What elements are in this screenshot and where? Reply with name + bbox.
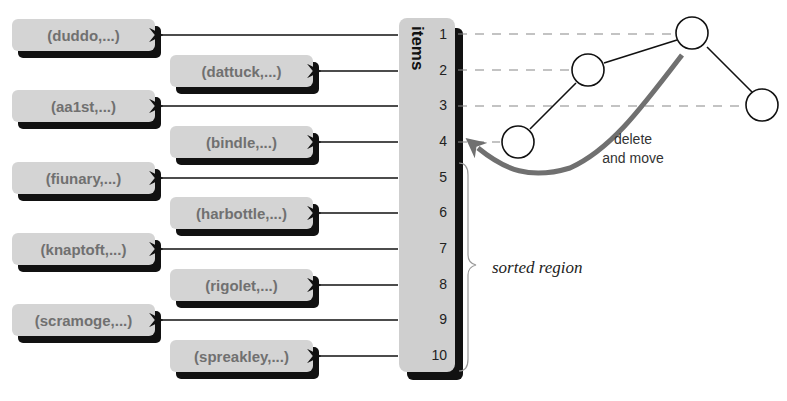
annotation-line: and move (588, 149, 678, 168)
tree-edges (530, 40, 752, 129)
sorted-region-label: sorted region (492, 258, 583, 278)
pointer-arrows (162, 35, 398, 356)
tree-node (676, 17, 708, 49)
heap-sort-diagram: (duddo,...) (dattuck,...) (aa1st,...) (b… (0, 0, 787, 401)
annotation-line: delete (588, 130, 678, 149)
sorted-brace (459, 163, 476, 371)
level-lines (458, 34, 746, 142)
tree-node (502, 126, 534, 158)
tree-node (572, 54, 604, 86)
delete-move-annotation: delete and move (588, 130, 678, 168)
tree-node (746, 89, 778, 121)
connectors (0, 0, 787, 401)
